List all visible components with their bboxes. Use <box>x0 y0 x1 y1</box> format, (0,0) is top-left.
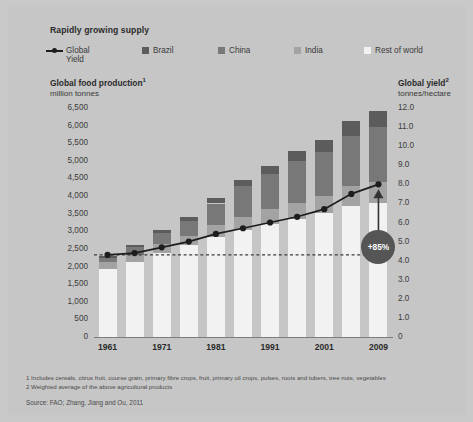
legend-label-global: Global <box>66 46 90 55</box>
left-tick-label: 0 <box>83 332 88 341</box>
square-swatch-icon <box>364 47 371 54</box>
yield-data-point[interactable] <box>159 244 165 250</box>
legend-label-brazil: Brazil <box>153 46 173 55</box>
square-swatch-icon <box>142 47 149 54</box>
left-tick-label: 4,000 <box>68 191 89 200</box>
right-tick-label: 8.0 <box>398 179 409 188</box>
right-tick-label: 12.0 <box>398 103 414 112</box>
yield-line-path <box>108 184 379 255</box>
right-axis-units: tonnes/hectare <box>398 89 451 98</box>
x-tick-label: 2001 <box>304 342 344 352</box>
page-title: Rapidly growing supply <box>50 25 149 35</box>
legend-label-india: India <box>305 46 323 55</box>
footnotes: 1 Includes cereals, citrus fruit, course… <box>26 373 466 391</box>
global-yield-line <box>94 108 392 337</box>
left-axis-units: million tonnes <box>50 89 99 98</box>
yield-data-point[interactable] <box>186 238 192 244</box>
legend-label-rest-of-world: Rest of world <box>375 46 423 55</box>
right-tick-label: 2.0 <box>398 294 409 303</box>
left-tick-label: 3,500 <box>68 209 89 218</box>
x-tick-label: 1981 <box>196 342 236 352</box>
x-axis-line <box>94 337 393 338</box>
yield-data-point[interactable] <box>132 250 138 256</box>
right-tick-label: 0 <box>398 332 403 341</box>
left-tick-label: 6,500 <box>68 103 89 112</box>
left-tick-label: 5,500 <box>68 138 89 147</box>
legend-item-global-yield[interactable]: Global Yield <box>46 46 90 65</box>
yield-data-point[interactable] <box>240 225 246 231</box>
left-tick-label: 1,500 <box>68 279 89 288</box>
right-tick-label: 4.0 <box>398 256 409 265</box>
yield-data-point[interactable] <box>213 231 219 237</box>
left-tick-label: 3,000 <box>68 226 89 235</box>
right-tick-label: 9.0 <box>398 160 409 169</box>
yield-data-point[interactable] <box>321 206 327 212</box>
yield-data-point[interactable] <box>375 181 381 187</box>
right-tick-label: 3.0 <box>398 275 409 284</box>
right-tick-label: 1.0 <box>398 313 409 322</box>
square-swatch-icon <box>294 47 301 54</box>
yield-data-point[interactable] <box>267 219 273 225</box>
x-tick-label: 1971 <box>142 342 182 352</box>
footnote-1: 1 Includes cereals, citrus fruit, course… <box>26 373 466 382</box>
legend-label-china: China <box>229 46 250 55</box>
x-tick-label: 1991 <box>250 342 290 352</box>
yield-data-point[interactable] <box>294 214 300 220</box>
legend-item-india[interactable]: India <box>294 46 323 55</box>
yield-data-point[interactable] <box>348 191 354 197</box>
right-axis-ticks: 12.011.010.09.08.07.06.05.04.03.02.01.00 <box>398 108 448 337</box>
left-tick-label: 1,000 <box>68 297 89 306</box>
footnote-2: 2 Weighted average of the above agricult… <box>26 382 466 391</box>
growth-arrow-head <box>373 189 383 198</box>
left-tick-label: 4,500 <box>68 173 89 182</box>
legend-label-yield: Yield <box>66 55 84 64</box>
x-tick-label: 2009 <box>358 342 398 352</box>
yield-data-point[interactable] <box>104 252 110 258</box>
chart-panel: Rapidly growing supply Global Yield Braz… <box>8 7 465 415</box>
right-tick-label: 7.0 <box>398 198 409 207</box>
right-tick-label: 11.0 <box>398 122 413 131</box>
chart-screenshot: Rapidly growing supply Global Yield Braz… <box>0 0 473 422</box>
left-tick-label: 6,000 <box>68 121 89 130</box>
legend-item-china[interactable]: China <box>218 46 250 55</box>
legend-item-brazil[interactable]: Brazil <box>142 46 173 55</box>
chart-legend: Global Yield Brazil China India Rest of … <box>46 45 456 67</box>
left-axis-title: Global food production1 <box>50 77 146 88</box>
left-tick-label: 2,000 <box>68 262 89 271</box>
right-tick-label: 6.0 <box>398 218 409 227</box>
left-axis-ticks: 6,5006,0005,5005,0004,5004,0003,5003,000… <box>30 108 88 337</box>
right-axis-title: Global yield2 <box>398 77 449 88</box>
source-line: Source: FAO; Zhang, Jiang and Ou, 2011 <box>26 399 143 406</box>
right-tick-label: 5.0 <box>398 237 409 246</box>
right-tick-label: 10.0 <box>398 141 414 150</box>
x-tick-label: 1961 <box>88 342 128 352</box>
left-tick-label: 2,500 <box>68 244 89 253</box>
legend-item-rest-of-world[interactable]: Rest of world <box>364 46 423 55</box>
left-tick-label: 5,000 <box>68 156 89 165</box>
left-tick-label: 500 <box>74 314 88 323</box>
line-marker-icon <box>46 47 63 54</box>
square-swatch-icon <box>218 47 225 54</box>
